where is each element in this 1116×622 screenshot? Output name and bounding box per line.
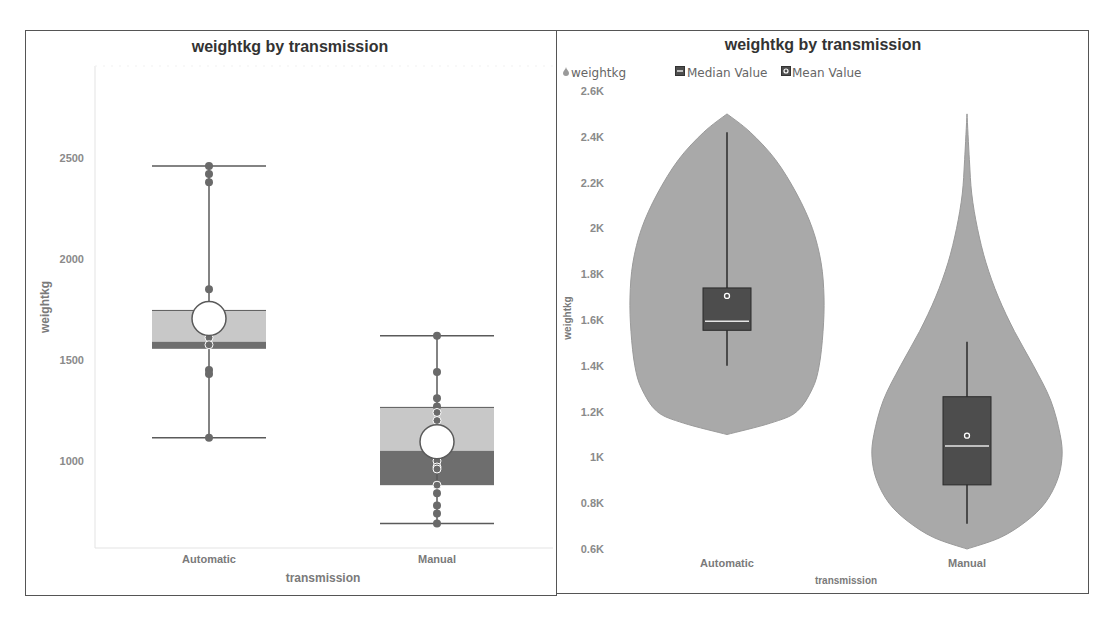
data-point — [433, 520, 441, 528]
right-legend[interactable]: weightkg Median Value Mean Value — [563, 66, 861, 80]
right-chart-title: weightkg by transmission — [724, 36, 921, 53]
legend-label-weightkg: weightkg — [571, 66, 626, 80]
left-y-tick-label: 1500 — [60, 354, 84, 366]
right-y-tick-label: 2.4K — [581, 131, 604, 143]
data-point — [433, 408, 441, 416]
right-y-tick-label: 1.2K — [581, 406, 604, 418]
data-point — [433, 332, 441, 340]
left-x-category-label: Manual — [418, 553, 456, 565]
data-point — [205, 341, 213, 349]
legend-item-median[interactable]: Median Value — [676, 66, 768, 80]
legend-label-mean: Mean Value — [792, 66, 861, 80]
left-chart-frame — [26, 31, 557, 596]
right-y-tick-label: 1.6K — [581, 314, 604, 326]
left-y-axis-label: weightkg — [38, 281, 52, 334]
right-y-tick-label: 1K — [590, 451, 604, 463]
left-x-axis-label: transmission — [286, 571, 361, 585]
data-point — [433, 501, 441, 509]
legend-item-mean[interactable]: Mean Value — [782, 66, 862, 80]
left-chart-panel: weightkg by transmission weightkg transm… — [26, 31, 557, 596]
data-point — [433, 465, 441, 473]
left-y-tick-label: 1000 — [60, 455, 84, 467]
right-y-tick-label: 0.6K — [581, 543, 604, 555]
data-point — [205, 285, 213, 293]
legend-label-median: Median Value — [687, 66, 767, 80]
left-x-category-label: Automatic — [182, 553, 236, 565]
data-point — [433, 417, 441, 425]
right-x-category-label: Automatic — [700, 557, 754, 569]
right-y-tick-label: 1.8K — [581, 268, 604, 280]
right-y-tick-label: 0.8K — [581, 497, 604, 509]
data-point — [433, 489, 441, 497]
data-point — [433, 394, 441, 402]
legend-item-weightkg[interactable]: weightkg — [563, 66, 626, 80]
data-point — [433, 481, 441, 489]
data-point — [205, 170, 213, 178]
data-point — [433, 368, 441, 376]
mean-legend-icon — [782, 67, 791, 76]
mean-marker — [192, 302, 226, 336]
data-point — [433, 509, 441, 517]
left-y-tick-label: 2500 — [60, 152, 84, 164]
data-point — [205, 178, 213, 186]
left-y-tick-label: 2000 — [60, 253, 84, 265]
right-y-tick-label: 2.2K — [581, 177, 604, 189]
right-y-tick-label: 2.6K — [581, 85, 604, 97]
right-x-category-label: Manual — [948, 557, 986, 569]
data-point — [205, 370, 213, 378]
right-y-tick-label: 1.4K — [581, 360, 604, 372]
data-point — [205, 434, 213, 442]
right-y-axis-label: weightkg — [562, 296, 573, 340]
dashboard-canvas: weightkg by transmission weightkg transm… — [0, 0, 1116, 622]
left-chart-title: weightkg by transmission — [191, 38, 388, 55]
violin-box — [943, 397, 991, 485]
right-x-axis-label: transmission — [815, 575, 877, 586]
data-point — [205, 162, 213, 170]
right-y-tick-label: 2K — [590, 222, 604, 234]
mean-marker — [420, 425, 454, 459]
violin-box — [703, 288, 751, 330]
right-chart-panel: weightkg by transmission weightkg Median… — [557, 31, 1089, 594]
